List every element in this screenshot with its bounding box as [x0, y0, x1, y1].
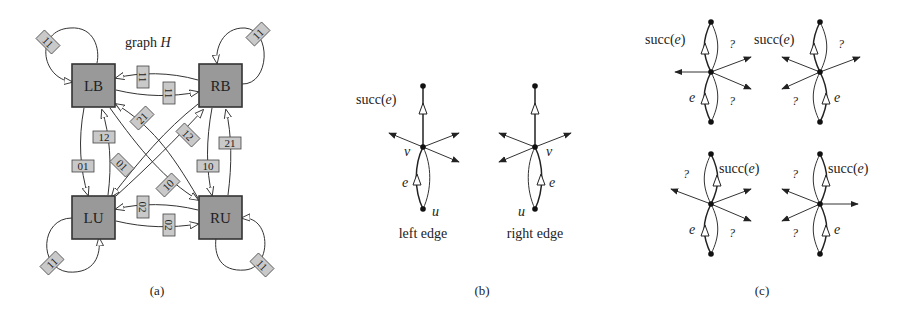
edge-ru-rb	[226, 110, 231, 195]
e-label: e	[549, 175, 555, 190]
figure-canvas: graph H LB RB LU	[0, 0, 909, 317]
svg-text:?: ?	[838, 37, 844, 51]
edge-label-loop-lu: 11	[40, 251, 64, 275]
e-label: e	[402, 175, 408, 190]
svg-text:LB: LB	[84, 78, 103, 94]
svg-text:11: 11	[163, 88, 175, 99]
u-label: u	[432, 204, 439, 219]
svg-text:?: ?	[792, 94, 798, 108]
svg-text:e: e	[834, 222, 840, 237]
succ-arrow-icon	[419, 103, 427, 114]
case-top-right: succ(e) e ? ?	[754, 19, 860, 125]
case-bottom-left: succ(e) e ? ?	[671, 151, 760, 257]
edge-label-lb-lu: 01	[72, 160, 94, 172]
succ-label: succ(e)	[645, 32, 686, 48]
caption-a: (a)	[150, 283, 164, 298]
edge-label-ru-lu: 02	[137, 196, 149, 218]
panel-c: succ(e) e ? ? succ(e) e ? ?	[645, 19, 869, 298]
edge-label-lb-rb: 11	[163, 82, 175, 104]
edge-label-ru-rb: 21	[219, 137, 241, 149]
case-top-left: succ(e) e ? ?	[645, 19, 751, 125]
node-lu: LU	[72, 196, 115, 239]
succ-arrow-icon	[531, 103, 539, 114]
edge-label-lu-rb: 12	[176, 123, 200, 147]
edge-ru-lb	[116, 104, 198, 198]
case-bottom-right: succ(e) e ? ?	[782, 151, 869, 257]
edge-lu-ru	[116, 221, 198, 227]
diagram-left-edge: succ(e) v e u left edge	[356, 83, 459, 241]
svg-text:12: 12	[99, 131, 110, 143]
diagram-right-edge: v e u right edge	[499, 83, 571, 241]
svg-text:10: 10	[203, 160, 215, 172]
svg-text:?: ?	[729, 37, 735, 51]
u-label: u	[518, 204, 525, 219]
right-edge-label: right edge	[507, 226, 563, 241]
succ-node	[420, 83, 426, 89]
svg-text:21: 21	[225, 137, 236, 149]
edge-e-arrow-icon	[537, 174, 545, 185]
edge-rb-ru	[208, 108, 213, 195]
edge-ru-lu	[116, 205, 198, 210]
svg-text:?: ?	[729, 94, 735, 108]
edge-label-lu-lb: 12	[93, 131, 115, 143]
edge-label-loop-ru: 11	[250, 253, 274, 277]
caption-b: (b)	[474, 283, 489, 298]
svg-text:02: 02	[163, 220, 175, 231]
svg-text:11: 11	[137, 72, 149, 83]
v-label: v	[404, 144, 411, 159]
edge-label-rb-ru: 10	[197, 160, 219, 172]
node-v	[532, 144, 538, 150]
edge-lu-lb	[102, 110, 110, 195]
left-edge-label: left edge	[399, 226, 448, 241]
edge-label-lu-ru: 02	[163, 214, 175, 236]
svg-text:RU: RU	[210, 210, 231, 226]
node-v	[420, 144, 426, 150]
edge-label-ru-lb: 21	[130, 106, 154, 130]
svg-text:02: 02	[137, 202, 149, 213]
edge-lb-rb	[116, 90, 198, 96]
node-u	[532, 206, 538, 212]
node-ru: RU	[199, 196, 242, 239]
svg-text:e: e	[689, 222, 695, 237]
succ-label: succ(e)	[828, 161, 869, 177]
edge-lb-ru	[110, 108, 198, 200]
node-lb: LB	[72, 64, 115, 107]
edge-rb-lu	[112, 104, 198, 196]
v-label: v	[546, 144, 553, 159]
succ-label: succ(e)	[754, 32, 795, 48]
edge-lu-rb	[116, 110, 203, 196]
svg-text:LU: LU	[84, 210, 104, 226]
edge-label-loop-lb: 11	[36, 30, 60, 54]
succ-label: succ(e)	[719, 161, 760, 177]
succ-label: succ(e)	[356, 92, 397, 108]
graph-title: graph H	[125, 35, 171, 50]
svg-text:?: ?	[729, 226, 735, 240]
svg-text:?: ?	[683, 167, 689, 181]
node-u	[420, 206, 426, 212]
succ-node	[532, 83, 538, 89]
svg-text:e: e	[834, 90, 840, 105]
svg-text:?: ?	[792, 226, 798, 240]
edge-label-rb-lb: 11	[137, 66, 149, 88]
edge-lb-lu	[81, 108, 88, 195]
svg-text:?: ?	[792, 167, 798, 181]
node-rb: RB	[199, 64, 242, 107]
edge-label-lb-ru: 10	[156, 173, 180, 197]
edge-label-loop-rb: 11	[246, 22, 270, 46]
svg-text:e: e	[689, 90, 695, 105]
caption-c: (c)	[755, 283, 769, 298]
svg-text:RB: RB	[210, 78, 230, 94]
svg-text:01: 01	[78, 160, 89, 172]
edge-e-arrow-icon	[413, 174, 421, 185]
panel-a: graph H LB RB LU	[36, 22, 274, 298]
edge-rb-lb	[116, 74, 198, 80]
panel-b: succ(e) v e u left edge v e u right edge…	[356, 83, 571, 298]
